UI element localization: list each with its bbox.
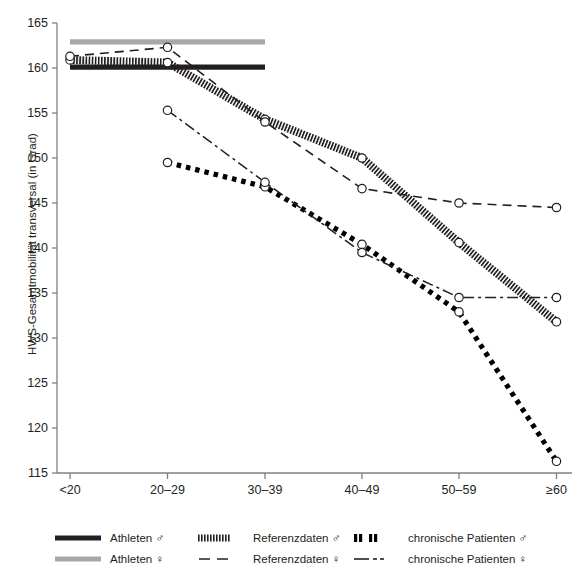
y-axis-tick-label: 125 bbox=[27, 376, 48, 390]
legend-item-athleten-m: Athleten ♂ bbox=[55, 527, 164, 548]
legend-item-referenzdaten-w: Referenzdaten ♀ bbox=[198, 548, 340, 569]
y-axis-tick-label: 145 bbox=[27, 196, 48, 210]
y-axis-tick-label: 115 bbox=[28, 466, 48, 480]
legend-symbol-solid-thick-grey-icon bbox=[55, 552, 103, 566]
legend-label: chronische Patienten ♀ bbox=[408, 553, 527, 565]
legend-row-male: Athleten ♂ Referenzdaten ♂ chronische Pa… bbox=[55, 527, 583, 548]
x-axis-tick-label: 40–49 bbox=[345, 483, 380, 497]
legend-label: Athleten ♂ bbox=[110, 532, 164, 544]
data-point-marker bbox=[358, 248, 366, 256]
legend-row-female: Athleten ♀ Referenzdaten ♀ chronische Pa… bbox=[55, 548, 583, 569]
y-axis-tick-label: 155 bbox=[27, 106, 48, 120]
data-point-marker bbox=[358, 154, 366, 162]
y-axis-tick-label: 135 bbox=[27, 286, 48, 300]
legend-symbol-dash-dot-black-icon bbox=[353, 552, 401, 566]
legend-symbol-solid-thick-black-icon bbox=[55, 531, 103, 545]
data-point-marker bbox=[552, 457, 560, 465]
y-axis-tick-label: 120 bbox=[27, 421, 48, 435]
legend-symbol-thick-dotted-black-icon bbox=[353, 531, 401, 545]
legend-symbol-dense-hatch-black-icon bbox=[198, 531, 246, 545]
x-axis-tick-label: 50–59 bbox=[442, 483, 477, 497]
data-point-marker bbox=[455, 238, 463, 246]
series-5 bbox=[163, 158, 560, 465]
data-point-marker bbox=[163, 58, 171, 66]
legend-item-athleten-w: Athleten ♀ bbox=[55, 548, 164, 569]
data-point-marker bbox=[552, 203, 560, 211]
x-axis-tick-label: <20 bbox=[59, 483, 80, 497]
data-point-marker bbox=[358, 240, 366, 248]
x-axis-tick-label: ≥60 bbox=[546, 483, 567, 497]
data-point-marker bbox=[552, 293, 560, 301]
data-point-marker bbox=[163, 43, 171, 51]
y-axis-tick-label: 160 bbox=[27, 61, 48, 75]
legend-label: Referenzdaten ♀ bbox=[253, 553, 340, 565]
chart-figure: HWS-Gesamtmobilität transversal (in Grad… bbox=[0, 0, 583, 570]
legend-symbol-dashed-black-icon bbox=[198, 552, 246, 566]
legend-label: chronische Patienten ♂ bbox=[408, 532, 527, 544]
legend-label: Athleten ♀ bbox=[110, 553, 164, 565]
data-point-marker bbox=[66, 52, 74, 60]
series-segment bbox=[264, 116, 364, 162]
data-point-marker bbox=[261, 178, 269, 186]
y-axis-tick-label: 140 bbox=[27, 241, 48, 255]
data-point-marker bbox=[455, 199, 463, 207]
series-3 bbox=[66, 56, 561, 326]
y-axis-tick-label: 150 bbox=[27, 151, 48, 165]
legend-item-chronische-m: chronische Patienten ♂ bbox=[353, 527, 527, 548]
legend-label: Referenzdaten ♂ bbox=[253, 532, 340, 544]
series-segment bbox=[456, 239, 559, 324]
x-axis-tick-label: 30–39 bbox=[248, 483, 283, 497]
legend-item-chronische-w: chronische Patienten ♀ bbox=[353, 548, 527, 569]
data-point-marker bbox=[163, 106, 171, 114]
series-line bbox=[168, 163, 557, 462]
series-line bbox=[70, 47, 557, 207]
data-point-marker bbox=[163, 158, 171, 166]
data-point-marker bbox=[261, 118, 269, 126]
series-segment bbox=[359, 155, 461, 246]
data-point-marker bbox=[455, 308, 463, 316]
x-axis-tick-label: 20–29 bbox=[150, 483, 185, 497]
legend-item-referenzdaten-m: Referenzdaten ♂ bbox=[198, 527, 340, 548]
chart-plot: 115120125130135140145150155160165<2020–2… bbox=[0, 0, 583, 520]
data-point-marker bbox=[455, 293, 463, 301]
y-axis-tick-label: 130 bbox=[27, 331, 48, 345]
data-point-marker bbox=[552, 318, 560, 326]
y-axis-tick-label: 165 bbox=[27, 16, 48, 30]
data-point-marker bbox=[358, 184, 366, 192]
chart-legend: Athleten ♂ Referenzdaten ♂ chronische Pa… bbox=[55, 527, 583, 569]
